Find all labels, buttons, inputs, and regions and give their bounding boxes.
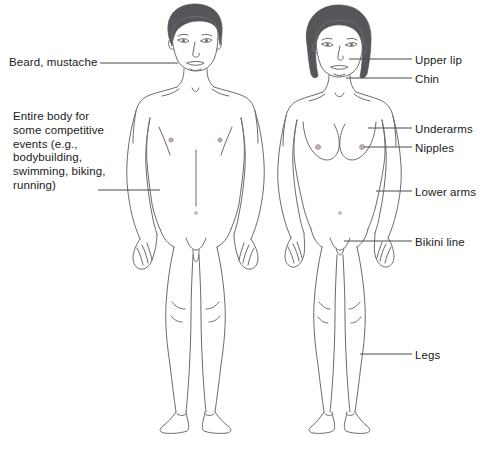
female-knee-left: [319, 302, 330, 309]
female-clavicle-left: [309, 94, 325, 101]
male-mouth: [187, 62, 204, 66]
male-clavicle-right: [212, 89, 229, 96]
female-nose: [338, 46, 344, 60]
label-nipples: Nipples: [415, 142, 454, 156]
female-hip-left: [311, 229, 322, 247]
label-legs: Legs: [415, 349, 440, 363]
male-nose: [193, 42, 200, 57]
female-torso-left: [294, 120, 311, 229]
male-knee-left-2: [171, 316, 182, 322]
female-leg-right-outer: [355, 247, 365, 412]
male-leg-right-outer: [215, 247, 225, 412]
female-hand-right-fingers: [377, 242, 391, 263]
female-mouth: [331, 66, 348, 70]
male-nipple-right: [218, 138, 222, 142]
female-torso-right: [368, 120, 385, 229]
female-brow-right: [347, 38, 357, 40]
female-arm-left-inner: [293, 120, 304, 233]
female-arm-right-inner: [375, 120, 386, 233]
female-nipple-left: [315, 144, 320, 149]
male-knee-left: [172, 302, 185, 309]
male-knee-right-2: [209, 316, 220, 322]
female-navel: [338, 211, 341, 214]
male-hip-right: [217, 229, 231, 247]
female-hip-right: [357, 229, 368, 247]
male-clavicle-left: [162, 89, 179, 96]
female-neck-left: [323, 75, 329, 92]
female-leg-left-inner: [330, 255, 337, 412]
male-ankle-left: [177, 414, 186, 416]
male-groin: [186, 238, 206, 250]
female-brow-left: [322, 38, 332, 40]
male-hand-right-fingers: [239, 243, 254, 265]
female-leg-right-inner: [343, 255, 350, 412]
female-hand-left: [285, 233, 305, 267]
female-breast-left: [303, 122, 339, 160]
male-leg-right-inner: [199, 255, 206, 412]
female-throat-notch: [335, 93, 344, 97]
label-entire-body: Entire body for some competitive events …: [13, 110, 139, 193]
label-lower-arms: Lower arms: [415, 186, 476, 200]
male-pupil-left: [182, 39, 185, 42]
female-knee-left-2: [318, 317, 328, 323]
male-pec-right: [221, 127, 232, 155]
male-chin-line: [190, 69, 201, 71]
male-brow-left: [178, 34, 188, 36]
male-figure: [127, 4, 265, 433]
female-shoulders-left: [283, 92, 323, 146]
female-pupil-left: [326, 43, 329, 46]
female-shoulders-right: [356, 92, 396, 146]
female-ankle-right: [346, 414, 354, 416]
male-neck-left: [177, 69, 184, 87]
female-clavicle-right: [354, 94, 370, 101]
label-upper-lip: Upper lip: [415, 54, 462, 68]
male-knee-right: [206, 302, 219, 309]
male-throat-notch: [192, 88, 199, 92]
label-bikini-line: Bikini line: [415, 236, 465, 250]
male-torso-left: [147, 118, 160, 229]
male-hair: [168, 4, 222, 46]
female-ankle-left: [325, 414, 333, 416]
male-hip-left: [160, 229, 174, 247]
male-genitals: [193, 250, 199, 262]
female-hand-right: [374, 233, 394, 267]
female-pupil-right: [350, 43, 353, 46]
female-knee-right: [349, 302, 360, 309]
male-navel: [194, 211, 197, 214]
male-leg-left-inner: [186, 255, 193, 412]
label-underarms: Underarms: [415, 123, 473, 137]
male-shoulders-right: [214, 87, 258, 143]
female-figure: [278, 5, 402, 433]
male-pec-left: [159, 127, 170, 155]
female-arm-right-outer: [388, 116, 401, 238]
page-footer-artifact: [446, 432, 450, 441]
male-nipple-left: [169, 138, 173, 142]
female-nipple-right: [359, 144, 364, 149]
label-chin: Chin: [415, 73, 439, 87]
male-ankle-right: [205, 414, 214, 416]
female-leg-left-outer: [314, 247, 324, 412]
female-knee-right-2: [351, 317, 361, 323]
male-pupil-right: [205, 39, 208, 42]
male-leg-left-outer: [166, 247, 176, 412]
label-beard-mustache: Beard, mustache: [9, 56, 97, 70]
male-brow-right: [202, 34, 212, 36]
female-hand-left-fingers: [288, 242, 302, 263]
male-hand-left-fingers: [137, 243, 152, 265]
female-arm-left-outer: [278, 116, 291, 238]
female-chin-line: [334, 74, 345, 76]
male-neck-right: [207, 69, 214, 87]
male-torso-right: [231, 118, 244, 229]
male-shoulders: [133, 87, 177, 143]
female-groin: [330, 238, 350, 250]
body-hair-diagram: Beard, mustache Entire body for some com…: [0, 0, 490, 451]
